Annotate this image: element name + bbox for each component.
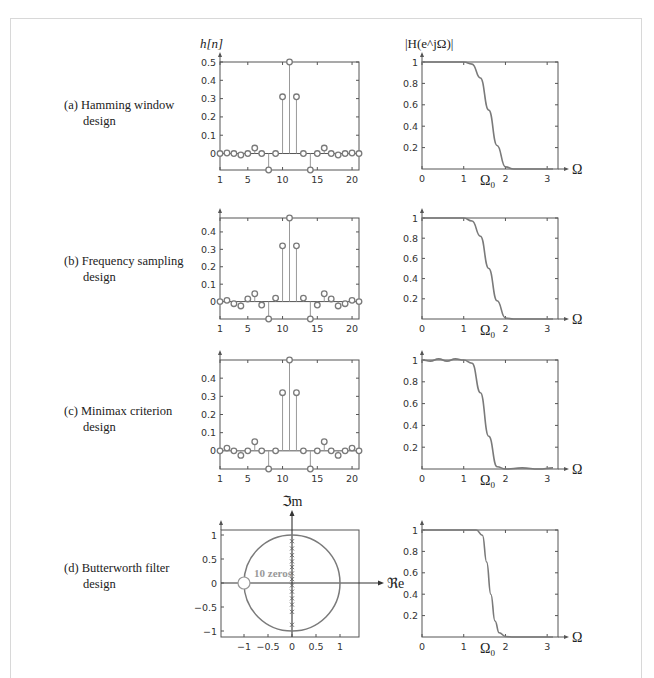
svg-text:5: 5 xyxy=(245,473,251,484)
svg-text:0.1: 0.1 xyxy=(201,130,216,141)
svg-text:0.2: 0.2 xyxy=(201,111,216,122)
stem-marker xyxy=(356,448,362,454)
svg-text:10: 10 xyxy=(277,473,289,484)
svg-text:1: 1 xyxy=(461,641,467,652)
svg-text:15: 15 xyxy=(311,473,323,484)
stem-marker xyxy=(321,291,327,297)
stem-marker xyxy=(301,448,307,454)
stem-marker xyxy=(273,295,279,301)
svg-text:0.6: 0.6 xyxy=(403,253,418,264)
svg-text:2: 2 xyxy=(502,173,508,184)
svg-text:0.4: 0.4 xyxy=(201,373,216,384)
stem-marker xyxy=(308,466,314,472)
svg-text:3: 3 xyxy=(544,473,550,484)
svg-text:10: 10 xyxy=(277,323,289,334)
svg-text:20: 20 xyxy=(346,323,358,334)
stem-marker xyxy=(315,151,321,157)
svg-text:5: 5 xyxy=(245,323,251,334)
svg-text:1: 1 xyxy=(217,323,223,334)
omega-axis-label: Ω xyxy=(572,162,582,177)
svg-text:2: 2 xyxy=(502,473,508,484)
stem-marker xyxy=(245,296,251,302)
stem-marker xyxy=(266,316,272,322)
svg-text:0.4: 0.4 xyxy=(403,589,418,600)
stem-marker xyxy=(259,448,265,454)
svg-text:−1: −1 xyxy=(203,626,217,637)
svg-text:0.5: 0.5 xyxy=(202,554,217,565)
svg-text:0.8: 0.8 xyxy=(403,233,418,244)
omega0-label: Ω0 xyxy=(480,323,495,340)
stem-marker xyxy=(259,151,265,157)
impulse-response-b: 00.10.20.30.415101520 xyxy=(201,208,362,334)
stem-marker xyxy=(266,466,272,472)
stem-marker xyxy=(217,448,223,454)
stem-marker xyxy=(328,448,334,454)
stem-marker xyxy=(245,448,251,454)
stem-marker xyxy=(280,243,286,249)
stem-marker xyxy=(280,390,286,396)
omega0-label: Ω0 xyxy=(480,473,495,490)
svg-text:0: 0 xyxy=(419,323,425,334)
svg-text:0.8: 0.8 xyxy=(403,376,418,387)
stem-marker xyxy=(231,301,237,307)
svg-text:0: 0 xyxy=(210,445,216,456)
svg-text:1: 1 xyxy=(461,173,467,184)
svg-text:0.8: 0.8 xyxy=(403,546,418,557)
freq-ylabel: |H(e^jΩ)| xyxy=(405,36,453,51)
stem-marker xyxy=(356,299,362,305)
omega-axis-label: Ω xyxy=(572,630,582,645)
svg-text:0: 0 xyxy=(419,173,425,184)
stem-marker xyxy=(238,453,244,459)
stem-marker xyxy=(294,390,300,396)
stem-marker xyxy=(349,150,355,156)
svg-text:0.6: 0.6 xyxy=(403,99,418,110)
svg-text:−0.5: −0.5 xyxy=(256,641,279,652)
omega-axis-label: Ω xyxy=(572,462,582,477)
stem-marker xyxy=(321,439,327,445)
svg-text:0.2: 0.2 xyxy=(201,261,216,272)
stem-marker xyxy=(308,167,314,173)
svg-text:0.5: 0.5 xyxy=(201,57,216,68)
stem-marker xyxy=(335,453,341,459)
stem-marker xyxy=(301,295,307,301)
stem-marker xyxy=(217,151,223,157)
omega-axis-label: Ω xyxy=(572,312,582,327)
svg-text:0.2: 0.2 xyxy=(201,409,216,420)
stem-marker xyxy=(224,150,230,156)
svg-text:0.4: 0.4 xyxy=(403,420,418,431)
svg-text:1: 1 xyxy=(412,355,418,366)
svg-text:0: 0 xyxy=(419,641,425,652)
stem-marker xyxy=(294,243,300,249)
stem-marker xyxy=(252,439,258,445)
svg-text:2: 2 xyxy=(502,641,508,652)
svg-text:0.2: 0.2 xyxy=(403,442,418,453)
stem-marker xyxy=(321,145,327,151)
svg-text:0.1: 0.1 xyxy=(201,427,216,438)
svg-text:1: 1 xyxy=(217,473,223,484)
svg-text:0.4: 0.4 xyxy=(201,226,216,237)
stem-marker xyxy=(266,167,272,173)
svg-text:0: 0 xyxy=(289,641,295,652)
svg-text:1: 1 xyxy=(461,323,467,334)
stem-marker xyxy=(252,145,258,151)
stem-marker xyxy=(238,303,244,309)
stem-marker xyxy=(245,151,251,157)
svg-text:0.1: 0.1 xyxy=(201,279,216,290)
svg-text:0: 0 xyxy=(419,473,425,484)
magnitude-response-c: Ω0.20.40.60.810123Ω0 xyxy=(403,350,583,490)
svg-text:0.4: 0.4 xyxy=(403,121,418,132)
stem-marker xyxy=(252,291,258,297)
impulse-response-a: 00.10.20.30.40.515101520h[n] xyxy=(200,36,362,185)
magnitude-response-b: Ω0.20.40.60.810123Ω0 xyxy=(403,208,583,340)
stem-marker xyxy=(273,151,279,157)
stem-marker xyxy=(224,445,230,451)
real-axis-label: ℜe xyxy=(387,576,404,591)
stem-marker xyxy=(217,299,223,305)
omega0-label: Ω0 xyxy=(480,641,495,658)
svg-text:0: 0 xyxy=(211,578,217,589)
stem-marker xyxy=(342,151,348,157)
svg-text:10: 10 xyxy=(277,174,289,185)
svg-text:0.6: 0.6 xyxy=(403,398,418,409)
magnitude-response-d: Ω0.20.40.60.810123Ω0 xyxy=(403,520,583,658)
magnitude-response-a: Ω0.20.40.60.810123Ω0|H(e^jΩ)| xyxy=(403,36,583,190)
